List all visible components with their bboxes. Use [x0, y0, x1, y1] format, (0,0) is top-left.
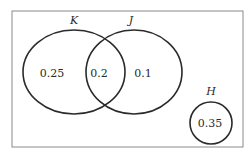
set-h-label: H — [205, 85, 216, 98]
venn-diagram: K J H 0.25 0.2 0.1 0.35 — [0, 0, 248, 155]
set-j-label: J — [127, 14, 134, 27]
region-k-only-value: 0.25 — [40, 67, 65, 80]
set-k-circle — [23, 30, 125, 114]
region-j-only-value: 0.1 — [134, 67, 152, 80]
region-k-and-j-value: 0.2 — [90, 67, 108, 80]
set-k-label: K — [69, 14, 79, 27]
region-h-only-value: 0.35 — [198, 117, 223, 130]
